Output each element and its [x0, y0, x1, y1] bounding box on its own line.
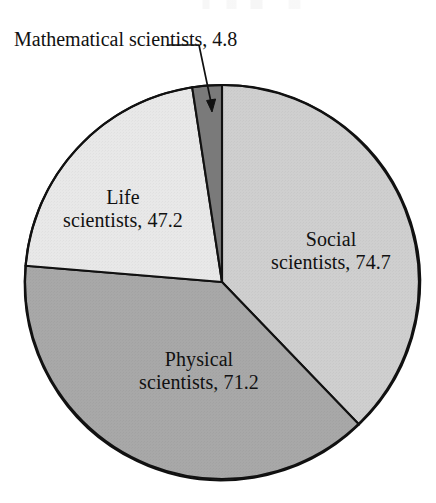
pie-chart-figure: Social scientists, 74.7 Physical scienti… — [0, 0, 436, 503]
pie-slice-life-texture — [26, 87, 223, 282]
pie-chart-graphic — [0, 0, 436, 503]
